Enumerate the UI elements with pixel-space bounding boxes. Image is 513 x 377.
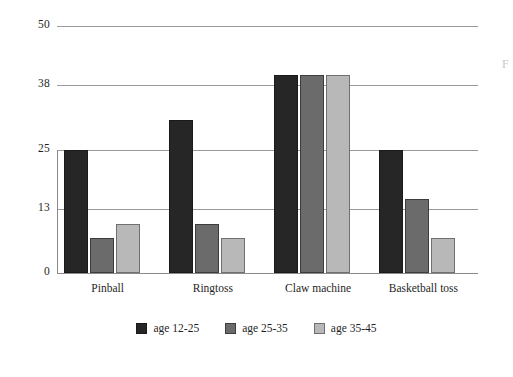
bar: [169, 120, 193, 273]
y-tick-label-50: 50: [38, 18, 50, 30]
bar: [326, 75, 350, 273]
gridline-0: [57, 273, 478, 274]
y-axis-labels: 013253850: [14, 0, 50, 377]
legend-label: age 35-45: [331, 322, 377, 334]
bar: [431, 238, 455, 273]
bar-chart: 013253850 PinballRingtossClaw machineBas…: [0, 0, 513, 377]
y-tick-label-38: 38: [38, 77, 50, 89]
legend-item: age 12-25: [136, 322, 199, 334]
y-axis-line: [57, 150, 58, 274]
bar: [195, 224, 219, 273]
bar: [64, 150, 88, 274]
bar: [221, 238, 245, 273]
legend-item: age 25-35: [225, 322, 288, 334]
legend-item: age 35-45: [314, 322, 377, 334]
y-tick-label-13: 13: [38, 201, 50, 213]
bar-group: [64, 26, 140, 273]
y-tick-label-0: 0: [44, 265, 50, 277]
bar: [274, 75, 298, 273]
legend-label: age 25-35: [242, 322, 288, 334]
x-category-label: Ringtoss: [193, 282, 233, 294]
bar: [90, 238, 114, 273]
bar: [379, 150, 403, 274]
x-axis-category-labels: PinballRingtossClaw machineBasketball to…: [57, 282, 478, 302]
x-category-label: Claw machine: [285, 282, 351, 294]
bar: [405, 199, 429, 273]
x-category-label: Basketball toss: [389, 282, 458, 294]
legend-swatch-icon: [314, 323, 325, 334]
chart-legend: age 12-25age 25-35age 35-45: [0, 322, 513, 334]
bar-group: [169, 26, 245, 273]
bar-group: [379, 26, 455, 273]
bar-group: [274, 26, 350, 273]
bar: [116, 224, 140, 273]
legend-swatch-icon: [225, 323, 236, 334]
x-category-label: Pinball: [91, 282, 124, 294]
scan-artifact-mark: F: [502, 56, 509, 73]
bar: [300, 75, 324, 273]
legend-swatch-icon: [136, 323, 147, 334]
y-tick-label-25: 25: [38, 142, 50, 154]
plot-area: [57, 26, 478, 273]
legend-label: age 12-25: [153, 322, 199, 334]
